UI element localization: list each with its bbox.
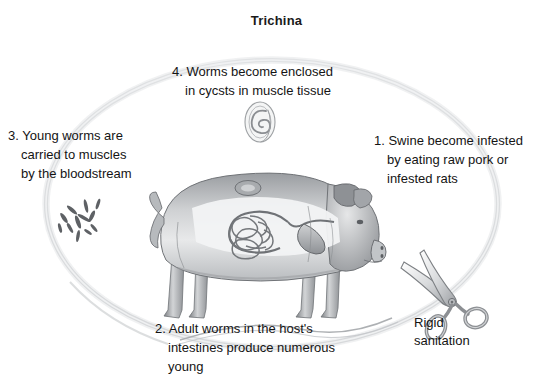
step-2-line-2: intestines produce numerous xyxy=(155,338,335,357)
step-2-line-3: young xyxy=(155,357,335,376)
step-1-line-1: 1. Swine become infested xyxy=(374,131,523,150)
sanitation-line-2: sanitation xyxy=(414,332,470,350)
step-4-line-2: in cycsts in muscle tissue xyxy=(172,81,333,100)
step-1-caption: 1. Swine become infested by eating raw p… xyxy=(374,131,523,188)
sanitation-line-1: Rigid xyxy=(414,314,470,332)
step-1-line-2: by eating raw pork or xyxy=(374,150,523,169)
step-3-line-2: carried to muscles xyxy=(8,145,132,164)
step-3-line-1: 3. Young worms are xyxy=(8,126,132,145)
page-title: Trichina xyxy=(0,13,553,28)
step-2-line-1: 2. Adult worms in the host's xyxy=(155,319,335,338)
trichina-life-cycle-figure: Trichina xyxy=(0,0,553,386)
step-3-line-3: by the bloodstream xyxy=(8,164,132,183)
step-1-line-3: infested rats xyxy=(374,169,523,188)
encysted-worm-illustration xyxy=(238,97,284,145)
step-4-caption: 4. Worms become enclosed in cycsts in mu… xyxy=(172,62,333,100)
pig-anatomy-illustration xyxy=(138,160,388,325)
sanitation-annotation: Rigid sanitation xyxy=(414,314,470,350)
step-2-caption: 2. Adult worms in the host's intestines … xyxy=(155,319,335,376)
step-3-caption: 3. Young worms are carried to muscles by… xyxy=(8,126,132,183)
larvae-cluster-illustration xyxy=(48,188,114,250)
step-4-line-1: 4. Worms become enclosed xyxy=(172,62,333,81)
